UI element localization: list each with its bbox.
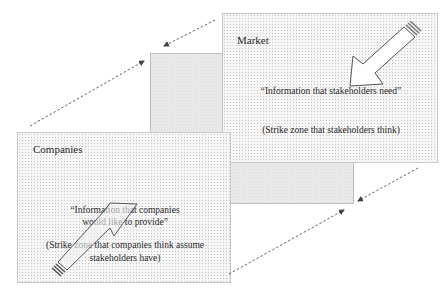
dashed-arrow-market-to-middle-bottom [358, 168, 418, 201]
market-box: Market “Information that stakeholders ne… [222, 13, 438, 163]
dashed-arrow-companies-to-middle-bottom [229, 210, 344, 274]
companies-title: Companies [33, 143, 83, 155]
market-title: Market [237, 34, 269, 46]
market-quote: “Information that stakeholders need” [223, 86, 439, 96]
dashed-arrow-market-to-middle [164, 20, 215, 46]
companies-quote-line-1: “Information that companies [18, 205, 232, 215]
dashed-arrow-companies-to-middle [30, 61, 144, 126]
companies-note-line-2: stakeholders have) [18, 253, 232, 263]
companies-note-line-1: (Strike zone that companies think assume [18, 240, 232, 250]
market-note: (Strike zone that stakeholders think) [223, 125, 439, 135]
companies-quote-line-2: would like to provide” [18, 217, 232, 227]
companies-box: Companies “Information that companies wo… [17, 132, 231, 283]
